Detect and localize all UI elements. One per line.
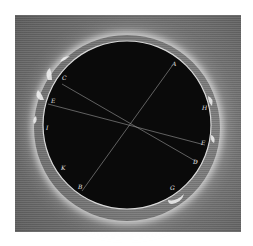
- label-g: G: [170, 184, 175, 191]
- label-h: H: [201, 104, 208, 111]
- moon-disc: [43, 41, 211, 209]
- label-c: C: [62, 74, 67, 81]
- eclipse-diagram: A B C D E F G H I K: [0, 0, 253, 246]
- label-b: B: [77, 183, 83, 190]
- label-k: K: [60, 164, 66, 171]
- label-a: A: [171, 60, 177, 67]
- label-e: E: [50, 97, 56, 104]
- label-d: D: [192, 158, 198, 165]
- label-f: F: [200, 139, 206, 146]
